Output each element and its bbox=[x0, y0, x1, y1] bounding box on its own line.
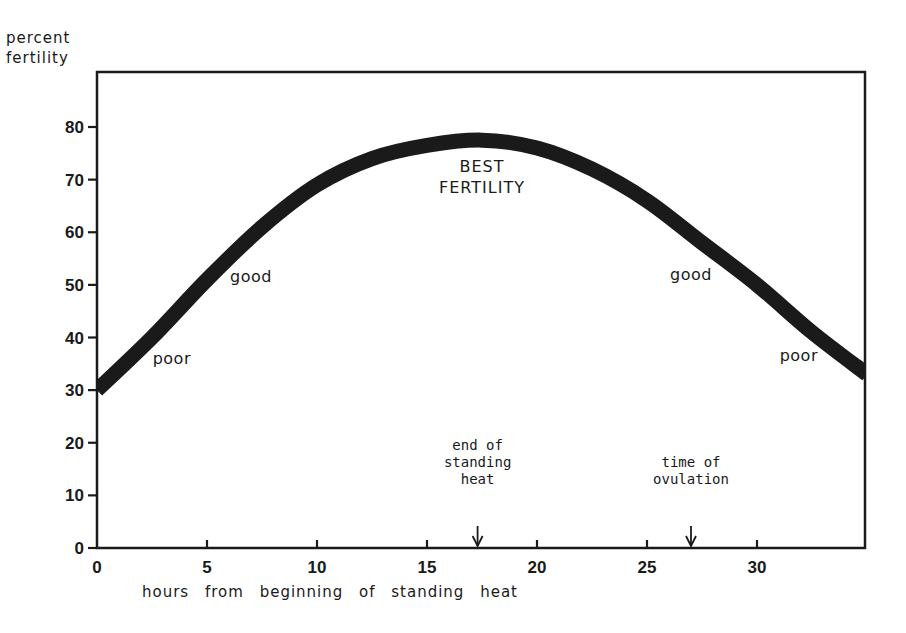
annotations: end ofstandingheattime ofovulation bbox=[444, 437, 729, 546]
y-tick-label: 40 bbox=[65, 329, 84, 348]
annotation-label: standing bbox=[444, 454, 511, 470]
zone-label: good bbox=[670, 265, 712, 284]
y-tick-label: 60 bbox=[65, 223, 84, 242]
y-axis-title-line-2: fertility bbox=[6, 49, 69, 67]
y-axis-title: percent fertility bbox=[6, 29, 70, 67]
x-tick-label: 10 bbox=[308, 558, 327, 577]
y-tick-label: 0 bbox=[75, 539, 84, 558]
y-axis-title-line-1: percent bbox=[6, 29, 70, 47]
y-tick-label: 80 bbox=[65, 118, 84, 137]
zone-label: poor bbox=[153, 349, 191, 368]
annotation-label: ovulation bbox=[653, 471, 729, 487]
fertility-chart: percent fertility 01020304050607080 0510… bbox=[0, 0, 906, 633]
y-tick-label: 30 bbox=[65, 381, 84, 400]
y-tick-label: 70 bbox=[65, 171, 84, 190]
x-tick-label: 15 bbox=[418, 558, 437, 577]
annotation-label: heat bbox=[461, 471, 495, 487]
x-axis-title: hours from beginning of standing heat bbox=[142, 583, 518, 601]
y-tick-label: 20 bbox=[65, 434, 84, 453]
y-tick-label: 10 bbox=[65, 486, 84, 505]
zone-label: poor bbox=[780, 346, 818, 365]
zone-label: good bbox=[230, 267, 272, 286]
annotation-label: time of bbox=[661, 454, 720, 470]
x-axis-ticks: 051015202530 bbox=[92, 540, 766, 577]
x-tick-label: 5 bbox=[202, 558, 211, 577]
zone-label: FERTILITY bbox=[439, 178, 525, 197]
annotation-label: end of bbox=[452, 437, 503, 453]
x-tick-label: 20 bbox=[528, 558, 547, 577]
x-tick-label: 30 bbox=[748, 558, 767, 577]
x-tick-label: 0 bbox=[92, 558, 101, 577]
y-tick-label: 50 bbox=[65, 276, 84, 295]
y-axis-ticks: 01020304050607080 bbox=[65, 118, 97, 558]
x-tick-label: 25 bbox=[638, 558, 657, 577]
zone-label: BEST bbox=[459, 157, 504, 176]
